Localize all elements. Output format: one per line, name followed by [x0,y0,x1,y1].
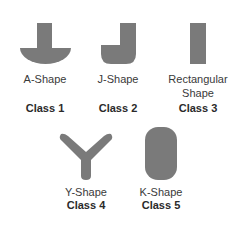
a-shape-icon [20,23,71,64]
j-shape-icon [101,23,136,64]
y-shape-icon [60,134,113,180]
class-5-label: Class 5 [142,199,181,212]
k-shape-label: K-Shape [140,186,183,199]
rectangular-shape-label: Rectangular [168,73,227,86]
class-3-label: Class 3 [179,102,218,115]
a-shape-label: A-Shape [24,73,67,86]
j-shape-label: J-Shape [98,73,139,86]
rectangular-shape-label-line2: Shape [182,87,214,100]
class-4-label: Class 4 [67,199,106,212]
y-shape-label: Y-Shape [65,186,107,199]
k-shape-icon [145,127,177,180]
class-2-label: Class 2 [99,102,138,115]
rectangular-shape-icon [190,23,206,64]
class-1-label: Class 1 [26,102,65,115]
